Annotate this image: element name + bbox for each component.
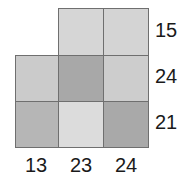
grid-cell-r1-c1[interactable] [58,55,104,102]
grid-cell-r2-c1[interactable] [58,101,104,148]
grid-cell-r1-c2[interactable] [103,55,149,102]
column-total-label-0: 13 [13,155,59,175]
column-total-label-1: 23 [58,155,104,175]
grid-cell-r2-c0[interactable] [15,101,59,148]
row-total-label-1: 24 [155,66,189,86]
grid-cell-r0-c0 [15,8,59,56]
grid [15,8,148,147]
grid-cell-r2-c2[interactable] [103,101,149,148]
row-total-label-2: 21 [155,112,189,132]
grid-cell-r0-c2[interactable] [103,8,149,56]
grid-cell-r1-c0[interactable] [15,55,59,102]
row-total-label-0: 15 [155,20,189,40]
shaded-grid-figure: 15 24 21 13 23 24 [0,0,191,186]
grid-cell-r0-c1[interactable] [58,8,104,56]
column-total-label-2: 24 [103,155,149,175]
